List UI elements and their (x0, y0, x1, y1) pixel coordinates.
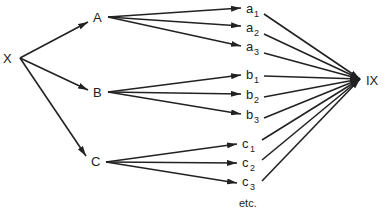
svg-text:c: c (242, 174, 249, 189)
node-a1: a1 (246, 1, 259, 19)
node-a3: a3 (246, 39, 259, 57)
node-c3: c3 (242, 174, 255, 192)
edge-b-b1 (108, 75, 241, 92)
svg-text:c: c (242, 136, 249, 151)
svg-text:b: b (246, 87, 253, 102)
node-ix: IX (366, 73, 379, 88)
edge-b-b2 (108, 92, 241, 94)
edge-c-c2 (106, 162, 237, 163)
node-x: X (3, 51, 12, 66)
svg-text:2: 2 (254, 95, 259, 105)
node-c1: c1 (242, 136, 255, 154)
node-c2: c2 (242, 155, 255, 173)
edge-a1-ix (264, 14, 360, 79)
svg-text:b: b (246, 67, 253, 82)
edge-b1-ix (264, 76, 360, 79)
svg-text:3: 3 (250, 182, 255, 192)
edge-c-c3 (106, 162, 237, 183)
svg-text:a: a (246, 39, 254, 54)
svg-text:1: 1 (254, 9, 259, 19)
svg-text:a: a (246, 20, 254, 35)
edge-x-a (20, 22, 88, 58)
edge-c-c1 (106, 144, 237, 162)
node-b: B (93, 85, 102, 100)
tree-diagram: X A B C a1 a2 a3 b1 b2 b3 c1 c2 c3 etc. … (0, 0, 385, 211)
svg-text:1: 1 (254, 75, 259, 85)
etc-label: etc. (239, 197, 257, 209)
edge-b-b3 (108, 92, 241, 114)
node-b2: b2 (246, 87, 259, 105)
svg-text:b: b (246, 107, 253, 122)
node-b3: b3 (246, 107, 259, 125)
svg-text:a: a (246, 1, 254, 16)
svg-text:2: 2 (254, 28, 259, 38)
node-b1: b1 (246, 67, 259, 85)
node-a: A (93, 10, 102, 25)
svg-text:c: c (242, 155, 249, 170)
edge-c2-ix (262, 79, 360, 160)
svg-text:3: 3 (254, 47, 259, 57)
edge-b3-ix (264, 79, 360, 118)
svg-text:1: 1 (250, 144, 255, 154)
edge-a-a1 (108, 8, 241, 17)
svg-text:2: 2 (250, 163, 255, 173)
node-c: C (91, 154, 100, 169)
node-a2: a2 (246, 20, 259, 38)
svg-text:3: 3 (254, 115, 259, 125)
